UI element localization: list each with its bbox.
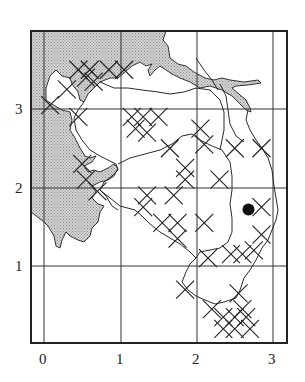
x-tick-0: 0: [39, 352, 47, 367]
x-tick-1: 1: [116, 352, 124, 367]
boundary-lines: [74, 58, 278, 304]
map-figure: [0, 0, 305, 382]
y-tick-2: 2: [15, 181, 23, 196]
y-tick-3: 3: [15, 102, 23, 117]
x-tick-2: 2: [192, 352, 200, 367]
site-dot-marker: [242, 203, 254, 215]
y-tick-1: 1: [15, 259, 23, 274]
x-tick-3: 3: [268, 352, 276, 367]
